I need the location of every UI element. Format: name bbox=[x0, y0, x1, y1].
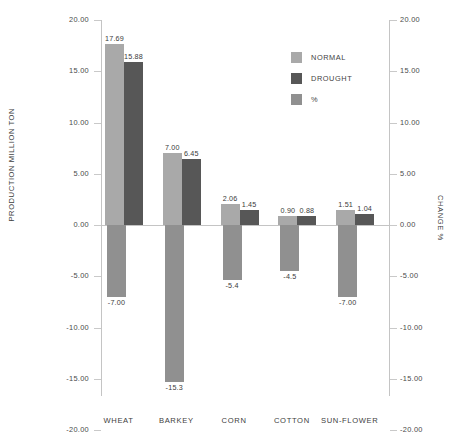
y-tick-label-right: 0.00 bbox=[400, 220, 444, 229]
bar-chart: PRODUCTION MILLION TON CHANGE % 20.0015.… bbox=[0, 0, 458, 444]
y-tick-mark-left bbox=[94, 328, 101, 329]
bar-pct[interactable] bbox=[107, 225, 126, 297]
y-tick-mark-left bbox=[94, 276, 101, 277]
bar-value-label: -7.00 bbox=[97, 298, 137, 307]
y-tick-label-left: 20.00 bbox=[45, 15, 89, 24]
bar-pct[interactable] bbox=[165, 225, 184, 382]
bar-drought[interactable] bbox=[355, 214, 374, 225]
legend-swatch-normal-icon bbox=[291, 52, 302, 63]
y-tick-mark-left bbox=[94, 71, 101, 72]
y-tick-label-left: 10.00 bbox=[45, 118, 89, 127]
bar-value-label: -4.5 bbox=[270, 272, 310, 281]
y-tick-mark-left bbox=[94, 225, 101, 226]
y-tick-label-right: 5.00 bbox=[400, 169, 444, 178]
bar-normal[interactable] bbox=[105, 44, 124, 225]
y-tick-label-right: 20.00 bbox=[400, 15, 444, 24]
bar-pct[interactable] bbox=[338, 225, 357, 297]
chart-legend: NORMAL DROUGHT % bbox=[291, 47, 401, 110]
bar-value-label: -15.3 bbox=[154, 383, 194, 392]
y-tick-label-right: 15.00 bbox=[400, 66, 444, 75]
bar-pct[interactable] bbox=[280, 225, 299, 271]
y-tick-mark-left bbox=[94, 20, 101, 21]
bar-value-label: -5.4 bbox=[212, 281, 252, 290]
y-axis-right-title: CHANGE % bbox=[436, 195, 445, 241]
legend-label-normal: NORMAL bbox=[311, 53, 346, 62]
bar-drought[interactable] bbox=[297, 216, 316, 225]
bar-group: 7.006.45-15.3 bbox=[163, 20, 221, 396]
y-tick-label-left: 15.00 bbox=[45, 66, 89, 75]
y-tick-mark-left bbox=[94, 174, 101, 175]
y-tick-label-left: -20.00 bbox=[45, 425, 89, 434]
bar-value-label: -7.00 bbox=[328, 298, 368, 307]
bar-value-label: 1.45 bbox=[229, 200, 269, 209]
bar-pct[interactable] bbox=[223, 225, 242, 280]
y-tick-label-left: -5.00 bbox=[45, 271, 89, 280]
y-tick-label-left: -15.00 bbox=[45, 374, 89, 383]
bar-drought[interactable] bbox=[124, 62, 143, 225]
legend-swatch-drought-icon bbox=[291, 73, 302, 84]
legend-item-drought[interactable]: DROUGHT bbox=[291, 68, 401, 89]
y-tick-label-right: 10.00 bbox=[400, 118, 444, 127]
bar-value-label: 17.69 bbox=[95, 34, 135, 43]
bar-drought[interactable] bbox=[182, 159, 201, 225]
legend-label-percent: % bbox=[311, 95, 318, 104]
y-tick-label-left: -10.00 bbox=[45, 323, 89, 332]
y-tick-mark-left bbox=[94, 430, 101, 431]
legend-item-normal[interactable]: NORMAL bbox=[291, 47, 401, 68]
y-tick-label-right: -5.00 bbox=[400, 271, 444, 280]
y-tick-label-left: 0.00 bbox=[45, 220, 89, 229]
y-tick-mark-left bbox=[94, 379, 101, 380]
y-tick-label-left: 5.00 bbox=[45, 169, 89, 178]
legend-item-percent[interactable]: % bbox=[291, 89, 401, 110]
y-tick-label-right: -15.00 bbox=[400, 374, 444, 383]
y-tick-mark-right bbox=[390, 430, 397, 431]
legend-label-drought: DROUGHT bbox=[311, 74, 352, 83]
y-tick-mark-left bbox=[94, 123, 101, 124]
y-axis-left-title: PRODUCTION MILLION TON bbox=[7, 108, 16, 222]
bar-value-label: 6.45 bbox=[171, 149, 211, 158]
bar-normal[interactable] bbox=[278, 216, 297, 225]
y-tick-label-right: -20.00 bbox=[400, 425, 444, 434]
bar-drought[interactable] bbox=[240, 210, 259, 225]
bar-value-label: 1.04 bbox=[345, 204, 385, 213]
bar-normal[interactable] bbox=[163, 153, 182, 225]
bar-value-label: 0.88 bbox=[287, 206, 327, 215]
legend-swatch-percent-icon bbox=[291, 94, 302, 105]
x-category-label: SUN-FLOWER bbox=[306, 416, 394, 425]
y-tick-label-right: -10.00 bbox=[400, 323, 444, 332]
bar-value-label: 15.88 bbox=[114, 52, 154, 61]
bar-group: 17.6915.88-7.00 bbox=[105, 20, 163, 396]
